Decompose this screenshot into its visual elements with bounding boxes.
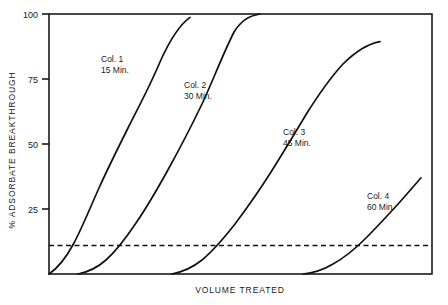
x-axis-title: VOLUME TREATED: [195, 285, 285, 295]
y-tick-label-100: 100: [23, 10, 38, 20]
plot-frame: [49, 14, 432, 274]
annotation-col-1-name: Col. 1: [101, 54, 123, 64]
annotation-col-3-time: 45 Min.: [283, 138, 311, 148]
annotation-col-2-name: Col. 2: [184, 80, 206, 90]
y-axis-ticks: [42, 14, 49, 209]
y-tick-label-50: 50: [28, 140, 38, 150]
annotation-col-1-time: 15 Min.: [101, 65, 129, 75]
annotation-col-2-time: 30 Min.: [184, 91, 212, 101]
y-tick-label-25: 25: [28, 205, 38, 215]
annotation-col-4-time: 60 Min.: [367, 202, 395, 212]
annotation-col-3-name: Col. 3: [283, 127, 305, 137]
y-axis-title: % ADSORBATE BREAKTHROUGH: [7, 72, 17, 229]
annotation-col-4-name: Col. 4: [367, 191, 389, 201]
breakthrough-curve-figure: 100 75 50 25 % ADSORBATE BREAKTHROUGH VO…: [0, 0, 448, 305]
chart-plot-area: 100 75 50 25 % ADSORBATE BREAKTHROUGH VO…: [0, 0, 448, 305]
y-tick-label-75: 75: [28, 75, 38, 85]
